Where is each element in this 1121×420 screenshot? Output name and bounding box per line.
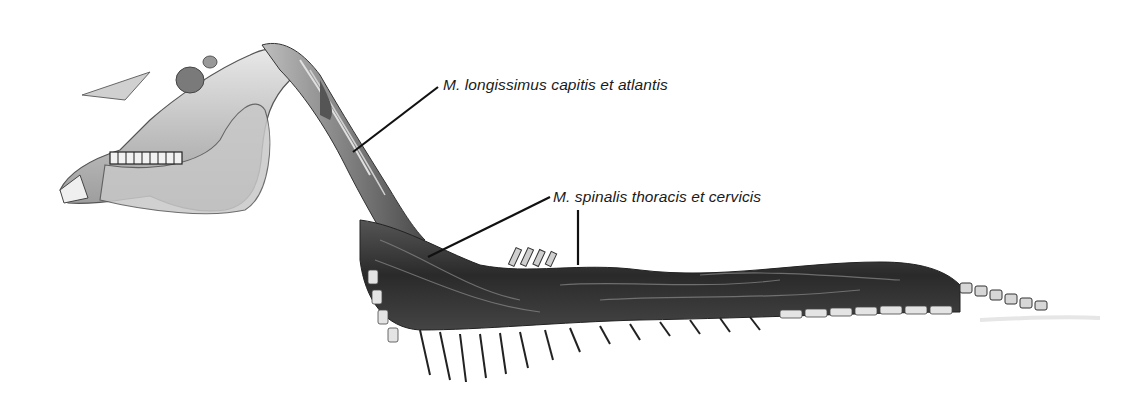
label-longissimus: M. longissimus capitis et atlantis [443, 76, 668, 94]
horse-anatomy-illustration [0, 0, 1121, 420]
thoracic-muscles [360, 220, 1100, 382]
anatomy-figure: M. longissimus capitis et atlantis M. sp… [0, 0, 1121, 420]
neck-muscles [262, 43, 425, 255]
skull [60, 49, 300, 214]
leader-line-spinalis-1 [428, 197, 550, 257]
label-spinalis: M. spinalis thoracis et cervicis [553, 188, 761, 206]
leader-line-longissimus [353, 87, 438, 152]
